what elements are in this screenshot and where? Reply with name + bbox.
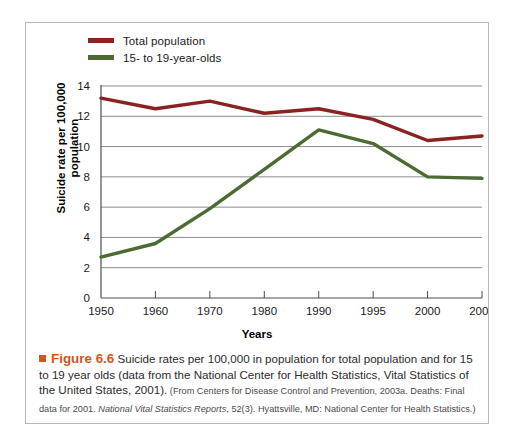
chart-plot-area: Suicide rate per 100,000 population 0246…	[26, 23, 488, 353]
x-axis-tick-label: 1970	[197, 305, 223, 317]
x-axis-tick-label: 1960	[143, 305, 169, 317]
x-axis-tick-labels: 19501960197019801990199520002001	[88, 305, 488, 317]
x-axis-tick-label: 1990	[306, 305, 332, 317]
y-axis-tick-label: 6	[84, 201, 90, 213]
x-axis-tick-label: 1950	[88, 305, 114, 317]
series-line-15-to-19-year-olds	[101, 130, 482, 257]
figure-caption: Figure 6.6 Suicide rates per 100,000 in …	[39, 351, 477, 417]
y-axis-tick-label: 8	[84, 171, 90, 183]
x-axis-title: Years	[26, 328, 488, 340]
figure-caption-main: Figure 6.6 Suicide rates per 100,000 in …	[39, 351, 477, 417]
figure-number: Figure 6.6	[51, 351, 114, 366]
data-series-lines	[101, 98, 482, 257]
x-axis-tick-label: 2000	[415, 305, 441, 317]
y-axis-tick-label: 4	[84, 231, 91, 243]
x-axis-tick-label: 1980	[251, 305, 277, 317]
x-axis-tick-label: 2001	[469, 305, 488, 317]
y-axis-tick-label: 10	[77, 141, 90, 153]
source-journal-title: National Vital Statistics Reports	[98, 404, 226, 414]
y-axis-tick-label: 14	[77, 80, 90, 92]
orange-square-bullet-icon	[39, 355, 46, 362]
series-line-total-population	[101, 98, 482, 140]
source-text-part2: , 52(3). Hyattsville, MD: National Cente…	[226, 404, 475, 414]
y-axis-tick-label: 12	[77, 110, 90, 122]
y-axis-tick-labels: 02468101214	[77, 80, 90, 304]
figure-frame: Total population 15- to 19-year-olds Sui…	[25, 22, 489, 424]
axis-lines	[101, 85, 482, 298]
line-chart-svg: 02468101214 1950196019701980199019952000…	[26, 23, 488, 323]
y-axis-tick-label: 2	[84, 262, 90, 274]
y-axis-tick-label: 0	[84, 292, 90, 304]
x-axis-tick-label: 1995	[360, 305, 386, 317]
x-axis-ticks	[155, 291, 482, 298]
